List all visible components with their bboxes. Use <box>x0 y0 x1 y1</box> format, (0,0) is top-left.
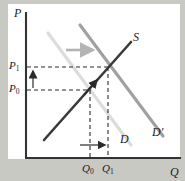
supply-demand-figure: P Q P1 P0 Q0 Q1 S D D' <box>0 0 185 181</box>
price-tick-p0-sub: 0 <box>16 87 20 96</box>
x-axis-label: Q <box>170 166 179 178</box>
quantity-tick-q0: Q0 <box>82 163 94 175</box>
price-tick-p1-sub: 1 <box>16 64 20 73</box>
price-tick-p0: P0 <box>9 83 19 95</box>
chart-canvas <box>0 0 185 181</box>
quantity-tick-q1-sub: 1 <box>110 167 114 176</box>
demand-shifted-label: D' <box>152 126 163 138</box>
quantity-tick-q1: Q1 <box>102 163 114 175</box>
y-axis-label: P <box>14 7 21 19</box>
quantity-tick-q1-base: Q <box>102 162 110 174</box>
price-tick-p0-base: P <box>9 82 16 94</box>
demand-initial-label: D <box>120 133 129 145</box>
price-tick-p1-base: P <box>9 59 16 71</box>
quantity-tick-q0-base: Q <box>82 162 90 174</box>
quantity-tick-q0-sub: 0 <box>90 167 94 176</box>
demand-shifted-curve <box>80 25 163 136</box>
price-tick-p1: P1 <box>9 60 19 72</box>
supply-curve-label: S <box>133 31 139 43</box>
